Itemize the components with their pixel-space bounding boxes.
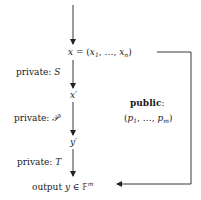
step-private-P: private: 𝒫′ <box>14 113 60 123</box>
step-private-T: private: T <box>17 157 61 167</box>
public-title: public: <box>130 98 165 108</box>
input-vector-label: x = (x1, …, xn) <box>68 47 132 60</box>
diagram-connectors <box>0 0 201 200</box>
step-private-S: private: S <box>16 67 60 77</box>
y-prime-label: y′ <box>70 137 77 147</box>
x-prime-label: x′ <box>70 90 77 100</box>
public-params-label: (p1, …, pm) <box>124 113 173 126</box>
output-label: output y ∈ 𝔽m <box>32 179 93 193</box>
